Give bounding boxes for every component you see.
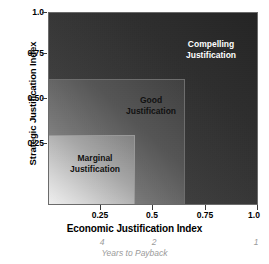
region-label-good: Good Justification (111, 95, 191, 116)
x-axis-title: Economic Justification Index (0, 223, 269, 234)
payback-tick-label-1: 1 (241, 237, 269, 247)
x-tick-label-1: 1.0 (234, 210, 269, 220)
payback-tick-label-4: 4 (87, 237, 117, 247)
region-label-marginal-line1: Marginal (55, 153, 135, 164)
secondary-axis-title: Years to Payback (0, 248, 269, 258)
region-label-marginal: Marginal Justification (55, 153, 135, 174)
region-label-good-line1: Good (111, 95, 191, 106)
justification-matrix-chart: Strategic Justification Index 1.0 0.75 0… (0, 0, 269, 264)
y-tick-label-025: 0.25 (10, 139, 44, 148)
region-label-compelling: Compelling Justification (167, 39, 255, 60)
y-tick-mark-075 (42, 53, 47, 54)
y-tick-mark-050 (42, 98, 47, 99)
region-label-compelling-line1: Compelling (167, 39, 255, 50)
region-label-compelling-line2: Justification (167, 50, 255, 61)
region-label-good-line2: Justification (111, 106, 191, 117)
y-tick-label-075: 0.75 (10, 49, 44, 58)
region-label-marginal-line2: Justification (55, 164, 135, 175)
x-tick-label-05: 0.5 (132, 210, 172, 220)
payback-tick-label-2: 2 (139, 237, 169, 247)
y-tick-mark-1 (42, 12, 47, 13)
y-tick-label-1: 1.0 (10, 8, 44, 17)
y-tick-mark-025 (42, 143, 47, 144)
x-tick-label-025: 0.25 (80, 210, 120, 220)
y-tick-label-050: 0.50 (10, 94, 44, 103)
x-tick-label-075: 0.75 (185, 210, 225, 220)
plot-area: Compelling Justification Good Justificat… (48, 12, 258, 205)
